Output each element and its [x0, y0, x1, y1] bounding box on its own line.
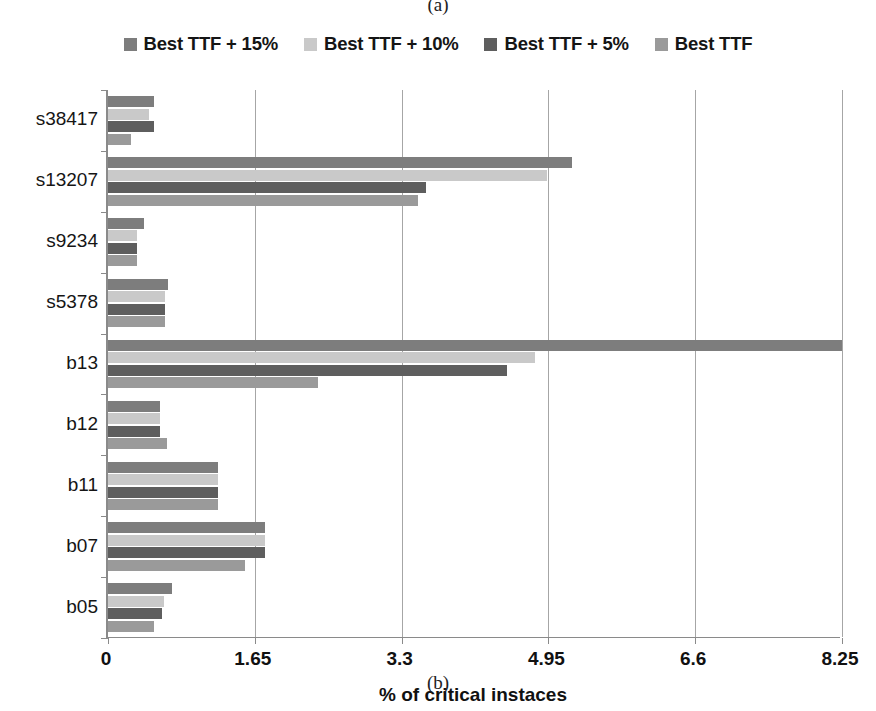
y-category-label: b07 [0, 535, 98, 557]
bar-s9234-1[interactable] [108, 218, 144, 229]
bar-b13-3[interactable] [108, 365, 507, 376]
y-category-label: s5378 [0, 291, 98, 313]
y-category-label: b05 [0, 596, 98, 618]
bar-b07-4[interactable] [108, 560, 245, 571]
bar-b05-3[interactable] [108, 608, 162, 619]
figure-caption-top: (a) [0, 0, 876, 16]
bar-b07-3[interactable] [108, 547, 265, 558]
y-tick-mark [101, 577, 108, 578]
y-axis-category-labels: s38417s13207s9234s5378b13b12b11b07b05 [0, 90, 98, 638]
y-category-label: s13207 [0, 169, 98, 191]
bar-b13-2[interactable] [108, 352, 535, 363]
legend-item-label: Best TTF + 15% [144, 33, 278, 55]
bar-s13207-2[interactable] [108, 170, 547, 181]
bar-s13207-4[interactable] [108, 195, 418, 206]
y-category-label: b12 [0, 413, 98, 435]
legend-item-label: Best TTF + 10% [324, 33, 458, 55]
y-tick-mark [101, 334, 108, 335]
x-tick-mark [402, 638, 403, 644]
legend-item-label: Best TTF [675, 33, 753, 55]
x-gridline [548, 90, 549, 637]
y-tick-mark [101, 90, 108, 91]
bar-b11-2[interactable] [108, 474, 218, 485]
bar-b05-2[interactable] [108, 596, 164, 607]
legend-item[interactable]: Best TTF + 15% [124, 33, 278, 55]
y-tick-mark [101, 151, 108, 152]
bar-s9234-4[interactable] [108, 255, 137, 266]
legend-swatch-icon [304, 38, 317, 51]
bar-b13-1[interactable] [108, 340, 842, 351]
legend-swatch-icon [124, 38, 137, 51]
bar-b13-4[interactable] [108, 377, 318, 388]
x-tick-label: 0 [101, 648, 112, 670]
bar-b07-2[interactable] [108, 535, 265, 546]
legend-item[interactable]: Best TTF + 10% [304, 33, 458, 55]
legend-item-label: Best TTF + 5% [504, 33, 628, 55]
x-gridline [842, 90, 843, 637]
x-tick-label: 1.65 [234, 648, 271, 670]
chart-legend: Best TTF + 15%Best TTF + 10%Best TTF + 5… [0, 33, 876, 55]
plot-area [106, 90, 840, 638]
x-tick-mark [842, 638, 843, 644]
x-tick-mark [548, 638, 549, 644]
x-tick-label: 3.3 [386, 648, 412, 670]
legend-item[interactable]: Best TTF + 5% [484, 33, 628, 55]
y-tick-mark [101, 516, 108, 517]
x-gridline [695, 90, 696, 637]
x-tick-mark [108, 638, 109, 644]
x-tick-mark [255, 638, 256, 644]
y-tick-mark [101, 394, 108, 395]
bar-s9234-2[interactable] [108, 230, 137, 241]
bar-b05-1[interactable] [108, 583, 172, 594]
y-tick-mark [101, 212, 108, 213]
chart-plot-wrapper: s38417s13207s9234s5378b13b12b11b07b05 01… [0, 70, 876, 650]
y-tick-mark [101, 455, 108, 456]
bar-b11-3[interactable] [108, 487, 218, 498]
bar-b12-4[interactable] [108, 438, 167, 449]
bar-s9234-3[interactable] [108, 243, 137, 254]
figure-caption-bottom: (b) [0, 672, 876, 694]
bar-b05-4[interactable] [108, 621, 154, 632]
bar-s38417-4[interactable] [108, 134, 131, 145]
x-tick-mark [695, 638, 696, 644]
bar-s5378-1[interactable] [108, 279, 168, 290]
bar-s13207-1[interactable] [108, 157, 572, 168]
bar-b12-1[interactable] [108, 401, 160, 412]
bar-b12-3[interactable] [108, 426, 160, 437]
y-category-label: s9234 [0, 230, 98, 252]
y-category-label: b13 [0, 352, 98, 374]
bar-b07-1[interactable] [108, 522, 265, 533]
bar-s5378-2[interactable] [108, 291, 165, 302]
bar-b12-2[interactable] [108, 413, 160, 424]
x-tick-label: 6.6 [680, 648, 706, 670]
bar-b11-1[interactable] [108, 462, 218, 473]
bar-s5378-4[interactable] [108, 316, 165, 327]
x-tick-label: 4.95 [528, 648, 565, 670]
bar-s38417-1[interactable] [108, 96, 154, 107]
y-tick-mark [101, 273, 108, 274]
bar-s38417-2[interactable] [108, 109, 149, 120]
legend-item[interactable]: Best TTF [655, 33, 753, 55]
bar-b11-4[interactable] [108, 499, 218, 510]
bar-s13207-3[interactable] [108, 182, 426, 193]
bar-s5378-3[interactable] [108, 304, 165, 315]
y-tick-mark [101, 638, 108, 639]
legend-swatch-icon [655, 38, 668, 51]
bar-s38417-3[interactable] [108, 121, 154, 132]
legend-swatch-icon [484, 38, 497, 51]
x-tick-label: 8.25 [822, 648, 859, 670]
y-category-label: b11 [0, 474, 98, 496]
y-category-label: s38417 [0, 108, 98, 130]
